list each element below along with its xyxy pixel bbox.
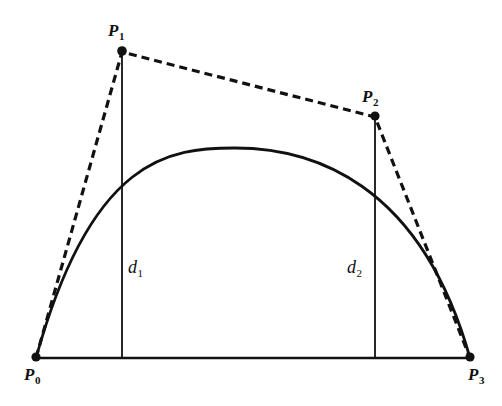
label-p1-subscript: 1 [119, 30, 125, 42]
label-p3-subscript: 3 [479, 374, 485, 386]
control-polygon-dashed [36, 52, 470, 358]
bezier-figure: P0 P1 P2 P3 d1 d2 [0, 0, 502, 406]
control-point-dot-p3 [465, 352, 474, 361]
label-d2-base: d [347, 257, 356, 277]
label-d1-base: d [128, 257, 137, 277]
control-point-dot-p1 [117, 46, 127, 56]
label-p2: P2 [362, 88, 379, 108]
label-p2-base: P [362, 87, 373, 106]
control-point-dot-p0 [31, 352, 40, 361]
label-p1: P1 [108, 22, 125, 42]
label-d1: d1 [128, 258, 143, 279]
label-p1-base: P [108, 21, 119, 40]
label-p3-base: P [468, 365, 479, 384]
figure-canvas [0, 0, 502, 406]
control-point-dot-p2 [370, 111, 379, 120]
label-d1-subscript: 1 [137, 267, 143, 279]
label-p0: P0 [24, 366, 41, 386]
bezier-curve [36, 148, 470, 358]
label-p0-subscript: 0 [35, 374, 41, 386]
label-p2-subscript: 2 [373, 96, 379, 108]
label-d2: d2 [347, 258, 362, 279]
label-p3: P3 [468, 366, 485, 386]
label-p0-base: P [24, 365, 35, 384]
label-d2-subscript: 2 [356, 267, 362, 279]
